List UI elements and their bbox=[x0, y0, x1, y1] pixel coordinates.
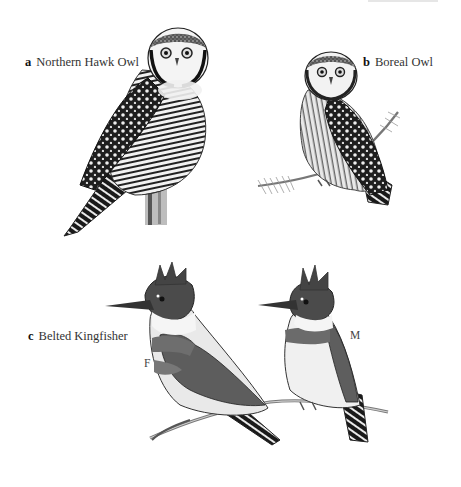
species-label-boreal-owl: bBoreal Owl bbox=[363, 56, 433, 69]
kingfisher-male bbox=[258, 265, 368, 442]
bird-illustrations bbox=[0, 0, 461, 487]
sex-label-female: F bbox=[144, 358, 150, 370]
species-letter: c bbox=[28, 329, 34, 343]
kingfisher-female bbox=[105, 262, 280, 445]
illustration-plate: aNorthern Hawk Owl bBoreal Owl cBelted K… bbox=[0, 0, 461, 487]
species-label-belted-kingfisher: cBelted Kingfisher bbox=[28, 330, 128, 343]
belted-kingfisher-figure bbox=[105, 262, 388, 445]
species-name: Belted Kingfisher bbox=[39, 329, 128, 343]
sex-label-male: M bbox=[350, 330, 360, 342]
species-name: Northern Hawk Owl bbox=[36, 55, 139, 69]
species-letter: b bbox=[363, 55, 370, 69]
species-label-northern-hawk-owl: aNorthern Hawk Owl bbox=[25, 56, 139, 69]
species-name: Boreal Owl bbox=[375, 55, 433, 69]
species-letter: a bbox=[25, 55, 31, 69]
boreal-owl-figure bbox=[258, 52, 400, 205]
